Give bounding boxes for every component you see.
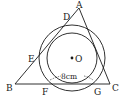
label-d: D — [63, 12, 70, 22]
label-o: O — [75, 54, 82, 64]
label-c: C — [112, 83, 119, 93]
center-point-o — [71, 57, 74, 60]
label-g: G — [94, 87, 101, 97]
measurement-label: 8cm — [61, 72, 77, 81]
geometry-diagram: A D E B F G C O 8cm — [0, 0, 125, 103]
label-b: B — [6, 83, 13, 93]
label-e: E — [28, 54, 35, 64]
label-f: F — [42, 87, 48, 97]
label-a: A — [75, 0, 83, 10]
